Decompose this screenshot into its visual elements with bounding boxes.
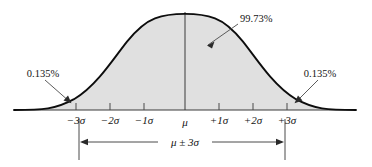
axis-label-minus-2-sigma: −2σ: [101, 114, 120, 126]
axis-label-minus-1-sigma: −1σ: [135, 114, 154, 126]
axis-label-plus-3-sigma: +3σ: [278, 114, 297, 126]
axis-label-minus-3-sigma: −3σ: [67, 114, 86, 126]
normal-distribution-figure: −3σ −2σ −1σ μ +1σ +2σ +3σ 99.73% 0.135% …: [0, 0, 372, 167]
callout-leader-right-tail: [295, 80, 319, 103]
span-range-label: μ ± 3σ: [170, 136, 200, 148]
callout-left-tail-label: 0.135%: [27, 68, 60, 79]
axis-label-plus-2-sigma: +2σ: [244, 114, 263, 126]
callout-leader-left-tail: [45, 80, 72, 103]
span-arrow-head-right: [276, 139, 284, 145]
distribution-chart-canvas: −3σ −2σ −1σ μ +1σ +2σ +3σ 99.73% 0.135% …: [0, 0, 372, 167]
span-arrow-head-left: [80, 139, 88, 145]
axis-label-plus-1-sigma: +1σ: [210, 114, 229, 126]
callout-center-area-label: 99.73%: [240, 13, 273, 24]
callout-right-tail-label: 0.135%: [304, 68, 337, 79]
axis-label-mu: μ: [181, 116, 188, 128]
